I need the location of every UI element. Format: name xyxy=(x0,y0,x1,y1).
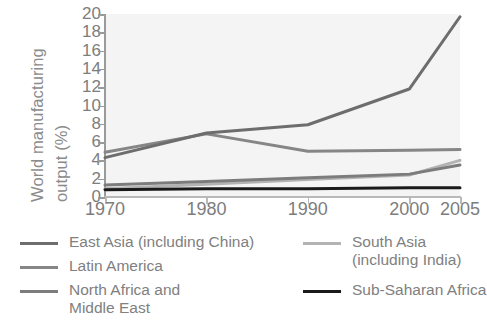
legend-line-swatch xyxy=(20,266,58,269)
y-tick-mark xyxy=(98,160,105,162)
legend-item-label-line2: Middle East xyxy=(69,299,180,317)
x-axis-tick-labels: 19701980199020002005 xyxy=(105,200,460,224)
series-line xyxy=(105,134,460,152)
x-tick-label: 2005 xyxy=(440,200,480,218)
y-tick-mark xyxy=(98,179,105,181)
chart-legend: East Asia (including China)Latin America… xyxy=(0,231,487,323)
series-line xyxy=(105,17,460,158)
y-tick-mark xyxy=(98,69,105,71)
y-tick-mark xyxy=(98,14,105,16)
x-tick-label: 1980 xyxy=(186,200,226,218)
y-tick-mark xyxy=(98,142,105,144)
legend-item-label-line2: (including India) xyxy=(352,251,461,269)
figure: World manufacturing output (%) 024681012… xyxy=(0,0,487,323)
legend-line-swatch xyxy=(20,290,58,293)
x-tick-label: 1970 xyxy=(85,200,125,218)
y-axis-tick-labels: 02468101214161820 xyxy=(55,14,101,197)
legend-line-swatch xyxy=(303,242,341,245)
legend-line-swatch xyxy=(20,242,58,245)
y-tick-mark xyxy=(98,32,105,34)
y-tick-mark xyxy=(98,51,105,53)
x-tick-label: 2000 xyxy=(389,200,429,218)
legend-item-label: North Africa andMiddle East xyxy=(69,281,180,317)
y-axis-label: World manufacturing output (%) xyxy=(6,0,62,205)
y-tick-mark xyxy=(98,87,105,89)
y-axis-label-line1: World manufacturing xyxy=(28,48,47,202)
legend-item-label: South Asia(including India) xyxy=(352,233,461,269)
series-line xyxy=(105,188,460,190)
legend-item-label: Latin America xyxy=(69,257,163,275)
plot-area xyxy=(105,14,460,197)
chart-area: World manufacturing output (%) 024681012… xyxy=(0,0,487,228)
legend-line-swatch xyxy=(303,290,341,293)
legend-item-label: East Asia (including China) xyxy=(69,233,254,251)
y-tick-mark xyxy=(98,106,105,108)
series-lines xyxy=(105,14,460,197)
x-tick-label: 1990 xyxy=(288,200,328,218)
legend-item-label: Sub-Saharan Africa xyxy=(352,281,486,299)
y-tick-mark xyxy=(98,124,105,126)
